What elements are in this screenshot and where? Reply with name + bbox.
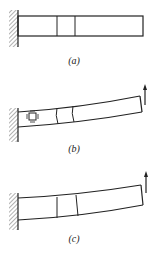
- beam-b-end: [140, 96, 142, 112]
- fixed-wall-a: [9, 10, 18, 47]
- beam-b-bottom: [18, 112, 142, 127]
- beam-c-top: [18, 185, 141, 198]
- beam-c-bottom: [18, 205, 143, 220]
- fixed-wall-c: [9, 193, 18, 230]
- panel-label-b: (b): [68, 143, 80, 154]
- panel-b: [9, 84, 147, 142]
- section-line-b2: [72, 106, 74, 122]
- section-line-b1: [56, 108, 58, 124]
- force-arrow-c-icon: [144, 171, 148, 193]
- panel-a: [9, 10, 143, 47]
- beam-diagram: [0, 0, 156, 256]
- panel-label-a: (a): [68, 55, 80, 66]
- beam-b-top: [18, 96, 140, 112]
- beam-a: [18, 16, 143, 36]
- panel-c: [9, 171, 148, 230]
- panel-label-c: (c): [68, 233, 79, 244]
- beam-c-end: [141, 185, 143, 205]
- force-arrow-b-icon: [143, 84, 147, 105]
- stress-element-icon: [27, 111, 38, 122]
- fixed-wall-b: [9, 108, 18, 142]
- section-line-c2: [76, 195, 78, 216]
